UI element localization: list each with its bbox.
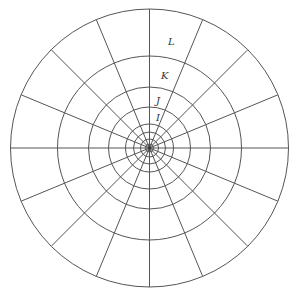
ring-label-k: K <box>160 70 169 81</box>
ring-label-j: J <box>154 95 161 106</box>
ring-label-l: L <box>167 36 175 47</box>
polar-grid-diagram: L K J I <box>0 0 299 297</box>
spoke-7 <box>51 50 149 148</box>
center-point <box>148 147 151 150</box>
spoke-11 <box>51 148 149 246</box>
spoke-15 <box>150 148 248 246</box>
spoke-3 <box>150 50 248 148</box>
